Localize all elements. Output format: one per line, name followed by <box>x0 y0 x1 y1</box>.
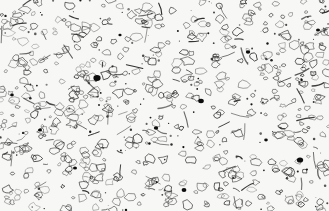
microstructure-texture <box>0 0 329 211</box>
micrograph-image <box>0 0 329 211</box>
